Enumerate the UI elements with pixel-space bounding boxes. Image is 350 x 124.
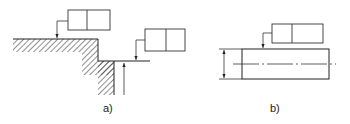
leader-line-b <box>263 33 272 48</box>
feature-control-frame-a2 <box>145 29 185 51</box>
panel-a-label: a) <box>103 102 113 114</box>
panel-b: b) <box>219 24 336 114</box>
hatched-upper-region <box>13 39 98 52</box>
panel-a: a) <box>13 10 185 114</box>
feature-control-frame-b <box>272 24 323 43</box>
hatched-lower-region <box>98 61 114 95</box>
feature-control-frame-a1 <box>68 10 110 30</box>
leader-line-a2 <box>136 40 145 60</box>
leader-line-a1 <box>57 21 68 38</box>
diagram-canvas: a) b) <box>0 0 350 124</box>
panel-b-label: b) <box>270 102 280 114</box>
